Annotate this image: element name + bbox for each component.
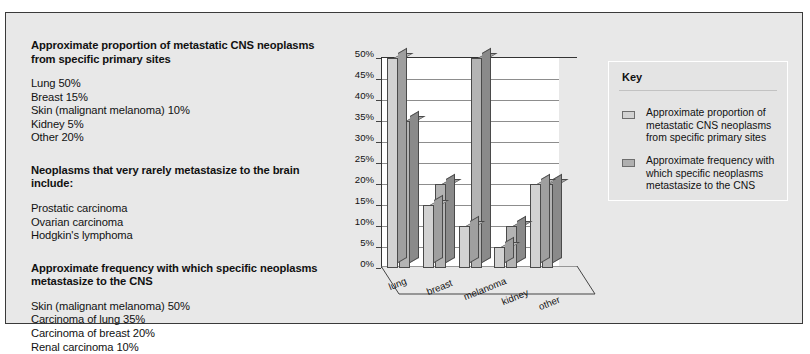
y-axis-tick-mark xyxy=(376,247,381,248)
y-axis-tick-label: 10% xyxy=(355,216,374,227)
text-column: Approximate proportion of metastatic CNS… xyxy=(31,39,336,354)
y-axis-tick-label: 30% xyxy=(355,132,374,143)
key-entry-label: Approximate proportion of metastatic CNS… xyxy=(646,107,788,145)
list-item: Hodgkin's lymphoma xyxy=(31,229,336,243)
list-item: Renal carcinoma 10% xyxy=(31,341,336,354)
bar-side-face xyxy=(541,174,550,263)
bar-breast-series1 xyxy=(423,205,434,268)
section-rare: Neoplasms that very rarely metastasize t… xyxy=(31,164,336,243)
bar-side-face xyxy=(517,216,526,263)
bar-front-face xyxy=(387,58,398,268)
key-entry-label: Approximate frequency with which specifi… xyxy=(646,155,788,193)
bar-front-face xyxy=(423,205,434,268)
y-axis-tick-label: 20% xyxy=(355,174,374,185)
section-frequency-heading-line1: Approximate frequency with which specifi… xyxy=(31,262,336,276)
y-axis-tick-mark xyxy=(376,121,381,122)
list-item: Ovarian carcinoma xyxy=(31,216,336,230)
key-swatch-icon xyxy=(622,159,635,167)
key-swatch-icon xyxy=(622,111,635,119)
y-axis-tick-label: 25% xyxy=(355,153,374,164)
bar-front-face xyxy=(459,226,470,268)
bar-front-face xyxy=(530,184,541,268)
bar-side-face xyxy=(398,48,407,263)
y-axis-tick-label: 5% xyxy=(360,237,374,248)
y-axis-tick-mark xyxy=(376,163,381,164)
list-item: Carcinoma of lung 35% xyxy=(31,313,336,327)
list-item: Other 20% xyxy=(31,131,336,145)
bar-chart: 50%45%40%35%30%25%20%15%10%5%0% lungbrea… xyxy=(344,53,596,298)
list-item: Skin (malignant melanoma) 10% xyxy=(31,104,336,118)
bar-melanoma-series1 xyxy=(459,226,470,268)
bar-side-face xyxy=(410,111,419,263)
list-item: Skin (malignant melanoma) 50% xyxy=(31,300,336,314)
y-axis-tick-mark xyxy=(376,205,381,206)
y-axis-tick-label: 50% xyxy=(355,48,374,59)
bar-lung-series1 xyxy=(387,58,398,268)
bar-other-series1 xyxy=(530,184,541,268)
bar-front-face xyxy=(494,247,505,268)
section-proportion-heading-line1: Approximate proportion of metastatic CNS… xyxy=(31,39,336,53)
key-title: Key xyxy=(622,71,642,83)
y-axis-tick-mark xyxy=(376,100,381,101)
section-rare-heading-line1: Neoplasms that very rarely metastasize t… xyxy=(31,164,336,191)
section-proportion: Approximate proportion of metastatic CNS… xyxy=(31,39,336,145)
key-divider xyxy=(619,90,777,91)
y-axis-tick-mark xyxy=(376,268,381,269)
y-axis-tick-label: 0% xyxy=(360,258,374,269)
y-axis-tick-label: 45% xyxy=(355,69,374,80)
list-item: Carcinoma of breast 20% xyxy=(31,327,336,341)
figure-panel: Approximate proportion of metastatic CNS… xyxy=(5,12,803,324)
section-frequency-heading-line2: metastasize to the CNS xyxy=(31,275,336,289)
chart-key: Key Approximate proportion of metastatic… xyxy=(608,61,788,201)
list-item: Breast 15% xyxy=(31,91,336,105)
y-axis-tick-mark xyxy=(376,142,381,143)
y-axis-tick-mark xyxy=(376,184,381,185)
y-axis-tick-label: 40% xyxy=(355,90,374,101)
list-item: Prostatic carcinoma xyxy=(31,202,336,216)
y-axis-tick-label: 15% xyxy=(355,195,374,206)
list-item: Lung 50% xyxy=(31,77,336,91)
section-frequency: Approximate frequency with which specifi… xyxy=(31,262,336,354)
bar-kidney-series1 xyxy=(494,247,505,268)
y-axis-tick-mark xyxy=(376,226,381,227)
list-item: Kidney 5% xyxy=(31,118,336,132)
y-axis-tick-label: 35% xyxy=(355,111,374,122)
y-axis-tick-mark xyxy=(376,79,381,80)
bar-side-face xyxy=(446,174,455,263)
bar-side-face xyxy=(482,48,491,263)
y-axis-labels: 50%45%40%35%30%25%20%15%10%5%0% xyxy=(344,53,374,268)
y-axis-tick-mark xyxy=(376,58,381,59)
bar-side-face xyxy=(470,216,479,263)
bar-side-face xyxy=(553,174,562,263)
section-proportion-heading-line2: from specific primary sites xyxy=(31,53,336,67)
bar-side-face xyxy=(434,195,443,263)
